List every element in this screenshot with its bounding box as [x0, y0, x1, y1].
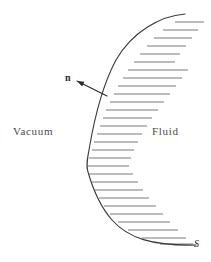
region-label-vacuum: Vacuum — [13, 125, 53, 137]
figure-container: Vacuum Fluid n S — [0, 0, 211, 262]
interface-curve — [87, 14, 196, 245]
surface-label: S — [194, 238, 199, 249]
arrow-head-icon — [77, 81, 84, 86]
normal-vector-label: n — [65, 72, 71, 83]
region-label-fluid: Fluid — [152, 125, 179, 137]
normal-vector-arrow — [77, 81, 107, 96]
